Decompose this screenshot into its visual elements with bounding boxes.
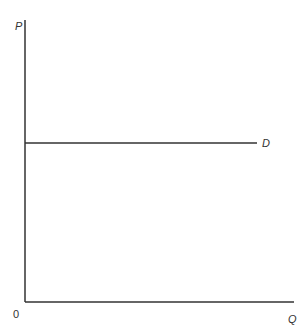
- origin-label: 0: [13, 308, 19, 320]
- curve-label: D: [262, 137, 270, 149]
- y-axis-label: P: [15, 20, 23, 32]
- x-axis-label: Q: [288, 313, 297, 325]
- demand-chart: P 0 Q D: [0, 0, 305, 332]
